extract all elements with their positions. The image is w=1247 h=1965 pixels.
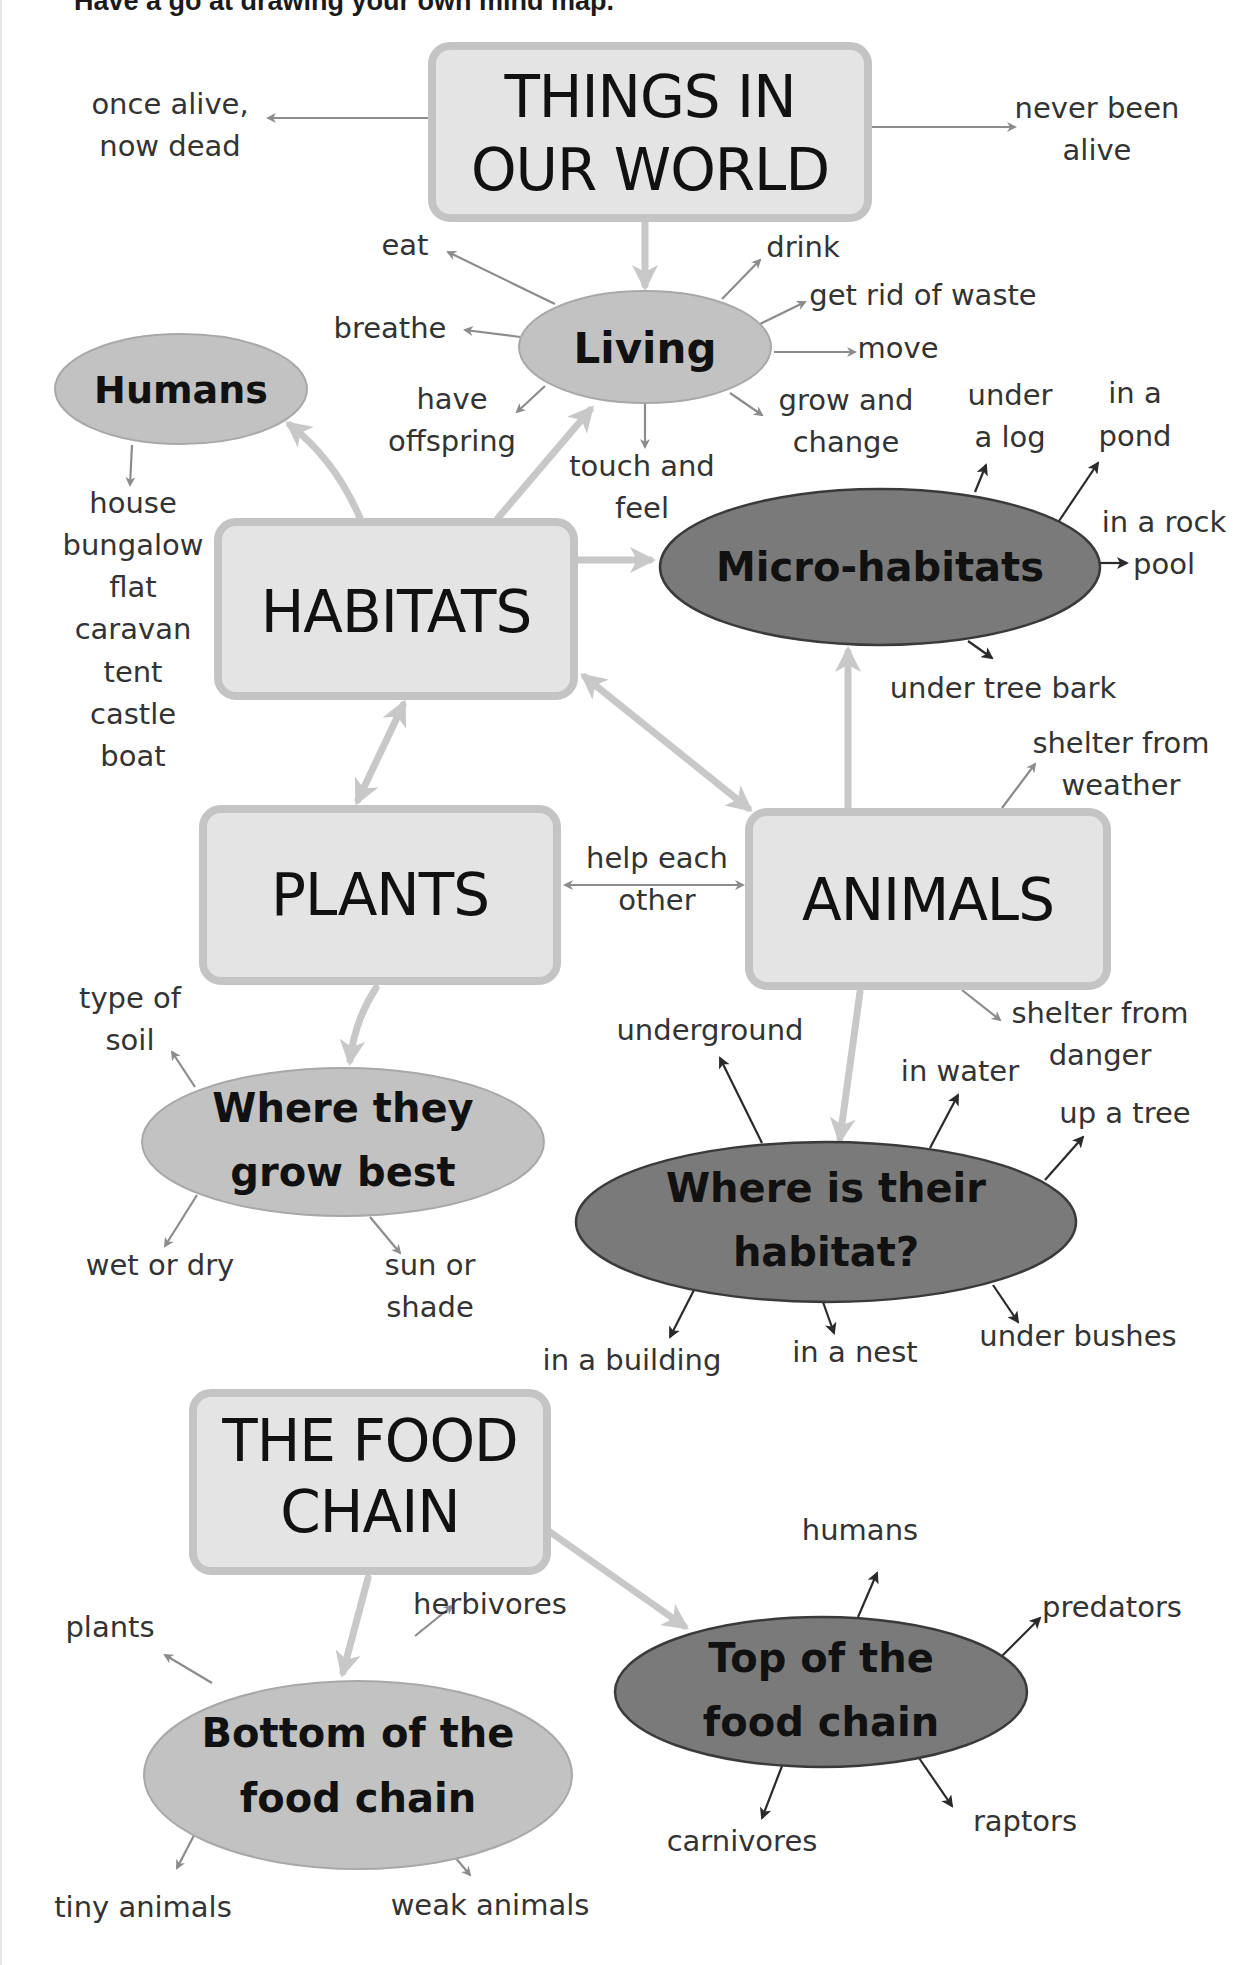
node-living: Living xyxy=(519,291,771,403)
leaf-tiny-animals: tiny animals xyxy=(54,1890,232,1924)
node-label-line2: habitat? xyxy=(733,1229,919,1275)
leaf-plants: plants xyxy=(65,1610,154,1644)
leaf-underground: underground xyxy=(616,1013,803,1047)
leaf-castle: castle xyxy=(90,697,176,731)
node-where-they-grow-best: Where they grow best xyxy=(142,1068,544,1216)
node-label: Humans xyxy=(94,368,268,412)
leaf-touch-and: touch and xyxy=(569,449,715,483)
leaf-pool: pool xyxy=(1133,547,1195,581)
node-title-line1: THINGS IN xyxy=(503,63,795,131)
node-animals: ANIMALS xyxy=(749,812,1107,986)
leaf-boat: boat xyxy=(100,739,165,773)
node-label: Living xyxy=(574,324,717,373)
leaf-under-tree-bark: under tree bark xyxy=(890,671,1117,705)
leaf-have: have xyxy=(416,382,487,416)
leaf-grow-and: grow and xyxy=(779,383,914,417)
node-label-line2: grow best xyxy=(230,1149,455,1195)
leaf-weak-animals: weak animals xyxy=(391,1888,590,1922)
leaf-shade: shade xyxy=(386,1290,474,1324)
leaf-wet-or-dry: wet or dry xyxy=(86,1248,235,1282)
node-plants: PLANTS xyxy=(203,809,557,981)
leaf-shelter-from-danger: shelter from xyxy=(1011,996,1188,1030)
leaf-eat: eat xyxy=(382,228,429,262)
leaf-in-a-building: in a building xyxy=(543,1343,722,1377)
node-title-line1: THE FOOD xyxy=(221,1407,517,1475)
node-label-line1: Bottom of the xyxy=(202,1710,515,1756)
leaf-now-dead: now dead xyxy=(99,129,241,163)
leaf-in-water: in water xyxy=(901,1054,1019,1088)
leaf-house: house xyxy=(89,486,176,520)
node-habitats: HABITATS xyxy=(218,522,574,696)
arrow-foodchain-to-bottom xyxy=(343,1578,368,1672)
node-label-line1: Where they xyxy=(212,1085,473,1131)
leaf-other: other xyxy=(618,883,695,917)
leaf-help-each: help each xyxy=(586,841,728,875)
leaf-a-log: a log xyxy=(974,420,1045,454)
leaf-caravan: caravan xyxy=(75,612,192,646)
node-bottom-of-food-chain: Bottom of the food chain xyxy=(144,1681,572,1869)
leaf-never-been: never been xyxy=(1015,91,1180,125)
leaf-drink: drink xyxy=(766,230,840,264)
node-title-line2: OUR WORLD xyxy=(471,136,829,204)
leaf-soil: soil xyxy=(106,1023,155,1057)
node-label-line1: Where is their xyxy=(666,1165,986,1211)
arrow-animals-to-habitat xyxy=(840,992,860,1138)
leaf-move: move xyxy=(858,331,939,365)
leaf-predators: predators xyxy=(1042,1590,1182,1624)
leaf-danger: danger xyxy=(1049,1038,1152,1072)
leaf-raptors: raptors xyxy=(973,1804,1077,1838)
leaf-in-a-nest: in a nest xyxy=(792,1335,917,1369)
leaf-offspring: offspring xyxy=(388,424,516,458)
leaf-carnivores: carnivores xyxy=(667,1824,818,1858)
leaf-alive: alive xyxy=(1063,133,1132,167)
node-label: PLANTS xyxy=(271,861,489,929)
leaf-breathe: breathe xyxy=(334,311,447,345)
node-top-of-food-chain: Top of the food chain xyxy=(615,1617,1027,1767)
arrow-habitats-to-humans xyxy=(290,425,360,518)
leaf-bungalow: bungalow xyxy=(63,528,204,562)
node-label-line2: food chain xyxy=(240,1775,476,1821)
mind-map: THINGS IN OUR WORLD HABITATS PLANTS ANIM… xyxy=(0,0,1247,1965)
node-label-line2: food chain xyxy=(703,1699,939,1745)
arrow-habitats-plants xyxy=(358,705,403,800)
leaf-once-alive: once alive, xyxy=(91,87,248,121)
leaf-under: under xyxy=(968,378,1053,412)
leaf-type-of: type of xyxy=(79,981,182,1015)
leaf-in-a: in a xyxy=(1108,376,1161,410)
node-label: Micro-habitats xyxy=(716,544,1044,590)
node-label-line1: Top of the xyxy=(708,1635,934,1681)
node-humans: Humans xyxy=(55,334,307,444)
leaf-up-a-tree: up a tree xyxy=(1059,1096,1190,1130)
leaf-waste: get rid of waste xyxy=(809,278,1036,312)
page-heading: Have a go at drawing your own mind map. xyxy=(74,0,614,17)
arrow-plants-to-growbest xyxy=(350,988,376,1060)
leaf-weather: weather xyxy=(1062,768,1181,802)
arrow-habitats-animals xyxy=(585,677,748,808)
leaf-under-bushes: under bushes xyxy=(979,1319,1176,1353)
node-title-line2: CHAIN xyxy=(280,1478,459,1546)
node-micro-habitats: Micro-habitats xyxy=(660,489,1100,645)
node-food-chain: THE FOOD CHAIN xyxy=(193,1393,547,1571)
node-label: HABITATS xyxy=(261,578,532,646)
node-where-is-their-habitat: Where is their habitat? xyxy=(576,1142,1076,1302)
leaf-herbivores: herbivores xyxy=(413,1587,567,1621)
node-label: ANIMALS xyxy=(802,866,1054,934)
leaf-in-a-rock: in a rock xyxy=(1102,505,1227,539)
leaf-change: change xyxy=(793,425,900,459)
leaf-tent: tent xyxy=(104,655,163,689)
leaf-pond: pond xyxy=(1099,419,1172,453)
arrow-foodchain-to-top xyxy=(550,1532,684,1626)
leaf-feel: feel xyxy=(615,491,669,525)
node-things-in-our-world: THINGS IN OUR WORLD xyxy=(432,46,868,218)
leaf-humans: humans xyxy=(802,1513,918,1547)
leaf-sun-or: sun or xyxy=(385,1248,476,1282)
leaf-flat: flat xyxy=(109,570,156,604)
leaf-shelter-from-weather: shelter from xyxy=(1032,726,1209,760)
page-edge-rule xyxy=(0,0,2,1965)
